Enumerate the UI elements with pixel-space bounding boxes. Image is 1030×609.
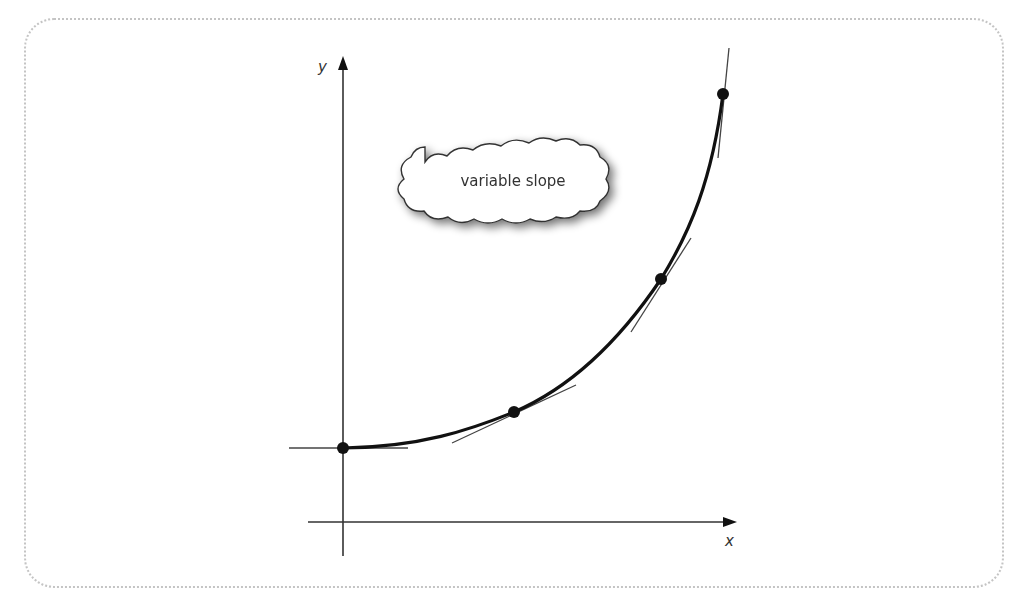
callout-text: variable slope [460,172,565,190]
point-3 [655,273,667,285]
exponential-slope-diagram: y x variable slope [0,0,1030,609]
callout-cloud: variable slope [398,138,609,223]
point-4 [717,88,729,100]
tangent-line-4 [718,48,729,158]
x-axis: x [308,517,737,550]
point-y-intercept [337,442,349,454]
y-axis-label: y [317,58,328,76]
y-axis: y [317,56,348,556]
tangent-lines [289,48,729,448]
x-axis-arrow-icon [723,517,737,527]
y-axis-arrow-icon [338,56,348,70]
point-2 [508,406,520,418]
x-axis-label: x [724,532,734,550]
